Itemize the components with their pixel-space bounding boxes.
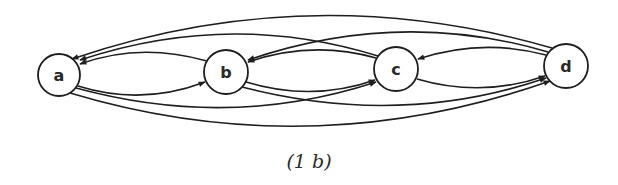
node-a-label: a [54, 66, 65, 85]
node-d-label: d [560, 57, 571, 76]
node-d: d [544, 44, 588, 88]
edge-c-to-d [417, 76, 545, 88]
node-b: b [204, 50, 248, 94]
figure-caption: (1 b) [0, 150, 618, 172]
node-c: c [374, 47, 418, 91]
edge-d-to-c [418, 47, 546, 59]
edge-b-to-c [246, 80, 375, 92]
node-c-label: c [391, 60, 400, 79]
node-a: a [38, 54, 80, 96]
node-b-label: b [220, 63, 231, 82]
edge-c-to-b [248, 50, 376, 62]
